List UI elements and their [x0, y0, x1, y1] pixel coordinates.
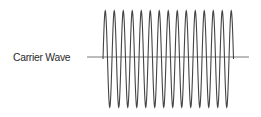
carrier-wave-sine	[103, 11, 234, 107]
carrier-wave-diagram	[0, 0, 261, 117]
